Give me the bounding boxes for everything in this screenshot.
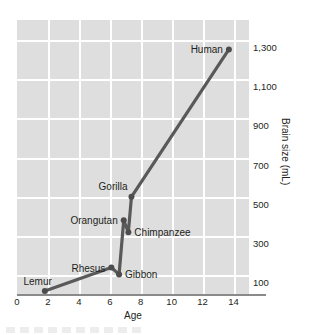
data-point-label: Gibbon <box>125 269 157 280</box>
y-tick-label: 100 <box>253 277 269 288</box>
gridline-vertical <box>172 20 174 295</box>
caption-strip <box>6 327 146 333</box>
x-tick-label: 10 <box>166 296 177 307</box>
data-point-label: Gorilla <box>99 180 128 191</box>
y-tick-label: 1,100 <box>253 81 277 92</box>
y-tick-label: 700 <box>253 160 269 171</box>
gridline-horizontal <box>17 236 249 238</box>
x-tick-label: 12 <box>197 296 208 307</box>
gridline-vertical <box>203 20 205 295</box>
gridline-vertical <box>79 20 81 295</box>
data-point-label: Chimpanzee <box>134 227 190 238</box>
plot-area <box>17 20 249 295</box>
y-tick-label: 900 <box>253 120 269 131</box>
x-axis-title: Age <box>17 310 249 321</box>
y-tick-label: 300 <box>253 238 269 249</box>
x-tick-label: 14 <box>228 296 239 307</box>
y-axis-title: Brain size (mL) <box>280 118 291 185</box>
gridline-vertical <box>48 20 50 295</box>
gridline-vertical <box>141 20 143 295</box>
data-point-label: Lemur <box>23 276 51 287</box>
y-tick-label: 1,300 <box>253 42 277 53</box>
data-point-label: Rhesus <box>71 262 105 273</box>
x-tick-label: 6 <box>107 296 112 307</box>
data-point-label: Human <box>191 44 223 55</box>
gridline-horizontal <box>17 79 249 81</box>
gridline-horizontal <box>17 158 249 160</box>
gridline-horizontal <box>17 40 249 42</box>
gridline-vertical <box>234 20 236 295</box>
y-tick-label: 500 <box>253 199 269 210</box>
x-tick-label: 0 <box>14 296 19 307</box>
x-tick-label: 8 <box>138 296 143 307</box>
gridline-vertical <box>110 20 112 295</box>
x-tick-label: 2 <box>45 296 50 307</box>
data-point-label: Orangutan <box>70 215 117 226</box>
figure-container: Age Brain size (mL) 1003005007009001,100… <box>0 0 319 335</box>
gridline-horizontal <box>17 118 249 120</box>
x-tick-label: 4 <box>76 296 81 307</box>
gridline-horizontal <box>17 197 249 199</box>
